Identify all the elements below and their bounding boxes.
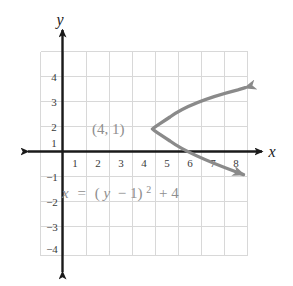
grid-lines (41, 52, 248, 256)
coordinate-plane: x y 1 2 3 4 5 6 7 8 4 3 2 1 −1 −2 −3 −4 … (0, 0, 293, 286)
equation-y-term: y (101, 185, 110, 201)
equation-plus-four: + 4 (159, 185, 179, 201)
y-tick-labels: 4 3 2 1 −1 −2 −3 −4 (46, 71, 58, 255)
y-tick-2: 2 (51, 121, 57, 133)
equation-equals-sign: = (77, 185, 85, 201)
x-tick-1: 1 (72, 157, 78, 169)
y-tick-neg2: −2 (46, 196, 58, 208)
x-axis-label: x (267, 143, 275, 160)
x-tick-3: 3 (118, 157, 124, 169)
x-tick-6: 6 (187, 157, 193, 169)
parabola-figure: x y 1 2 3 4 5 6 7 8 4 3 2 1 −1 −2 −3 −4 … (0, 0, 293, 286)
vertex-label: (4, 1) (92, 121, 125, 138)
x-tick-8: 8 (233, 157, 239, 169)
y-axis-label: y (54, 11, 64, 29)
x-tick-2: 2 (95, 157, 101, 169)
equation-minus-one: − 1) (118, 185, 143, 202)
y-tick-1: 1 (51, 137, 57, 149)
axis-lines (28, 30, 262, 272)
y-tick-4: 4 (51, 71, 57, 83)
x-tick-4: 4 (141, 157, 147, 169)
y-tick-neg4: −4 (46, 243, 58, 255)
equation-exponent: 2 (146, 184, 151, 195)
svg-text:x = (: x = ( y − 1) 2 + 4 (61, 180, 179, 202)
equation-x-term: x (61, 185, 69, 201)
equation-label: x = ( y − 1) 2 + 4 (61, 180, 179, 202)
x-tick-5: 5 (164, 157, 170, 169)
y-tick-neg3: −3 (46, 221, 58, 233)
y-tick-neg1: −1 (46, 171, 58, 183)
y-tick-3: 3 (51, 96, 57, 108)
equation-open-paren: ( (95, 185, 100, 202)
